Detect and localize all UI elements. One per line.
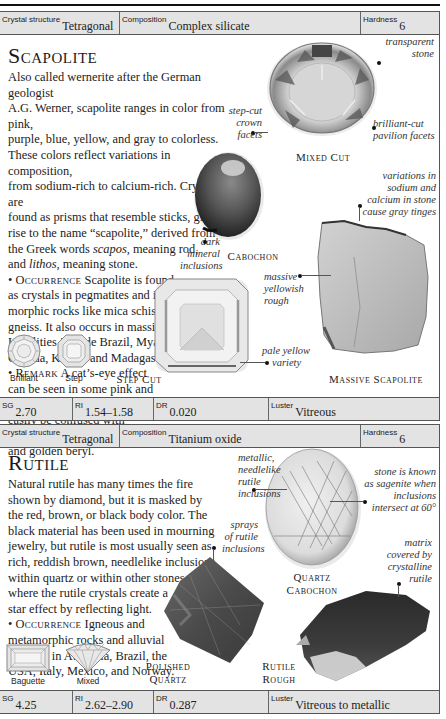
scapolite-top-properties: Crystal structure Tetragonal Composition…: [0, 11, 440, 35]
composition-value: Complex silicate: [168, 19, 249, 34]
mixed-cut-icon: [64, 640, 112, 674]
annot-line: stone: [368, 48, 434, 60]
sg-label: SG: [2, 694, 14, 703]
annot-line: step-cut: [220, 105, 262, 117]
caption-massive-scapolite: Massive Scapolite: [316, 373, 436, 386]
desc-line: shown by diamond, but it is masked by: [8, 493, 238, 509]
desc-line: A.G. Werner, scapolite ranges in color f…: [8, 101, 233, 132]
desc-line: Also called wernerite after the German g…: [8, 70, 233, 101]
hardness-cell: Hardness 6: [361, 425, 439, 447]
caption-line: Polished: [138, 660, 198, 673]
rutile-title: Rutile: [8, 450, 69, 476]
desc-italic: lithos,: [29, 257, 60, 271]
annot-line: dark: [180, 236, 220, 248]
annot-line: rutile: [238, 476, 288, 488]
sg-label: SG: [2, 401, 14, 410]
dr-cell: DR 0.020: [154, 398, 269, 420]
rutile-top-properties: Crystal structure Tetragonal Composition…: [0, 424, 440, 448]
rutile-rough-image: [296, 585, 436, 685]
composition-cell: Composition Titanium oxide: [120, 425, 361, 447]
caption-line: Quartz: [282, 571, 342, 584]
annot-line: mineral: [180, 248, 220, 260]
baguette-cut-icon: [6, 644, 50, 672]
crystal-structure-cell: Crystal structure Tetragonal: [0, 12, 120, 34]
annotation-dot: [203, 240, 207, 244]
sg-cell: SG 4.25: [0, 691, 73, 713]
annot-line: pale yellow: [262, 345, 318, 357]
annotation-leader: [240, 362, 265, 363]
desc-line: jewelry, but rutile is most usually seen…: [8, 539, 238, 555]
step-cut-icon: [56, 333, 92, 369]
composition-label: Composition: [122, 428, 166, 437]
annot-line: stone is known: [360, 466, 436, 478]
desc-fragment: the Greek words: [8, 242, 90, 256]
annotation-leader: [301, 275, 331, 276]
annotation-variations: variations in sodium and calcium in ston…: [352, 170, 436, 218]
annot-line: variations in: [352, 170, 436, 182]
annotation-metallic-inclusions: metallic, needlelike rutile inclusions: [238, 452, 288, 500]
crystal-structure-label: Crystal structure: [2, 428, 60, 437]
annotation-dot: [372, 126, 376, 130]
hardness-label: Hardness: [363, 428, 397, 437]
ri-value: 1.54–1.58: [85, 405, 133, 420]
scapolite-title: Scapolite: [8, 43, 97, 69]
annot-line: rough: [264, 295, 314, 307]
annot-line: metallic,: [238, 452, 288, 464]
annotation-dot: [363, 500, 367, 504]
hardness-value: 6: [399, 19, 405, 34]
page-top-rule: [0, 4, 440, 6]
polished-quartz-image: [160, 555, 272, 667]
annotation-dark-inclusions: dark mineral inclusions: [180, 236, 220, 272]
annotation-massive-rough: massive yellowish rough: [264, 271, 314, 307]
massive-scapolite-image: [314, 217, 432, 357]
occurrence-text: Igneous and: [85, 617, 145, 631]
crystal-structure-value: Tetragonal: [62, 432, 113, 447]
annot-line: pavilion facets: [373, 130, 439, 142]
dr-label: DR: [156, 694, 168, 703]
hardness-cell: Hardness 6: [361, 12, 439, 34]
caption-polished-quartz: Polished Quartz: [138, 660, 198, 686]
desc-line: the red, brown, or black body color. The: [8, 508, 238, 524]
annot-line: calcium in stone: [352, 194, 436, 206]
annotation-matrix: matrix covered by crystalline rutile: [372, 537, 432, 585]
annotation-leader: [254, 132, 268, 133]
annot-line: as sagenite when: [360, 478, 436, 490]
annot-line: of rutile: [222, 531, 258, 543]
desc-fragment: meaning stone.: [63, 257, 138, 271]
annotation-transparent-stone: transparent stone: [368, 36, 434, 60]
cut-label-step: Step: [54, 373, 94, 383]
annotation-step-cut-crown: step-cut crown facets: [220, 105, 262, 141]
luster-label: Luster: [271, 694, 293, 703]
annot-line: cause gray tinges: [352, 206, 436, 218]
caption-line: Quartz: [138, 673, 198, 686]
cabochon-gem-image: [191, 148, 265, 242]
annot-line: inclusions: [180, 260, 220, 272]
annotation-sprays: sprays of rutile inclusions: [222, 519, 258, 555]
desc-italic: scapos,: [93, 242, 130, 256]
annot-line: transparent: [368, 36, 434, 48]
annot-line: yellowish: [264, 283, 314, 295]
annotation-leader: [255, 489, 287, 490]
occurrence-heading: Occurrence: [15, 273, 81, 287]
caption-step-cut: Step Cut: [104, 373, 174, 386]
crystal-structure-label: Crystal structure: [2, 15, 60, 24]
annot-line: intersect at 60°: [360, 502, 436, 514]
desc-line: black material has been used in mourning: [8, 524, 238, 540]
cut-label-brilliant: Brilliant: [4, 373, 44, 383]
annot-line: sodium and: [352, 182, 436, 194]
annotation-brilliant-pavilion: brilliant-cut pavilion facets: [373, 118, 439, 142]
ri-label: RI: [75, 401, 83, 410]
luster-value: Vitreous to metallic: [295, 698, 390, 713]
annot-line: facets: [220, 129, 262, 141]
scapolite-bottom-properties: SG 2.70 RI 1.54–1.58 DR 0.020 Luster Vit…: [0, 397, 440, 421]
annotation-leader: [330, 501, 363, 502]
annot-line: sprays: [222, 519, 258, 531]
caption-line: Rutile: [254, 660, 304, 673]
annot-line: brilliant-cut: [373, 118, 439, 130]
sg-value: 4.25: [16, 698, 37, 713]
luster-value: Vitreous: [295, 405, 336, 420]
cut-label-baguette: Baguette: [6, 676, 50, 686]
annot-line: inclusions: [222, 543, 258, 555]
composition-label: Composition: [122, 15, 166, 24]
composition-value: Titanium oxide: [168, 432, 241, 447]
